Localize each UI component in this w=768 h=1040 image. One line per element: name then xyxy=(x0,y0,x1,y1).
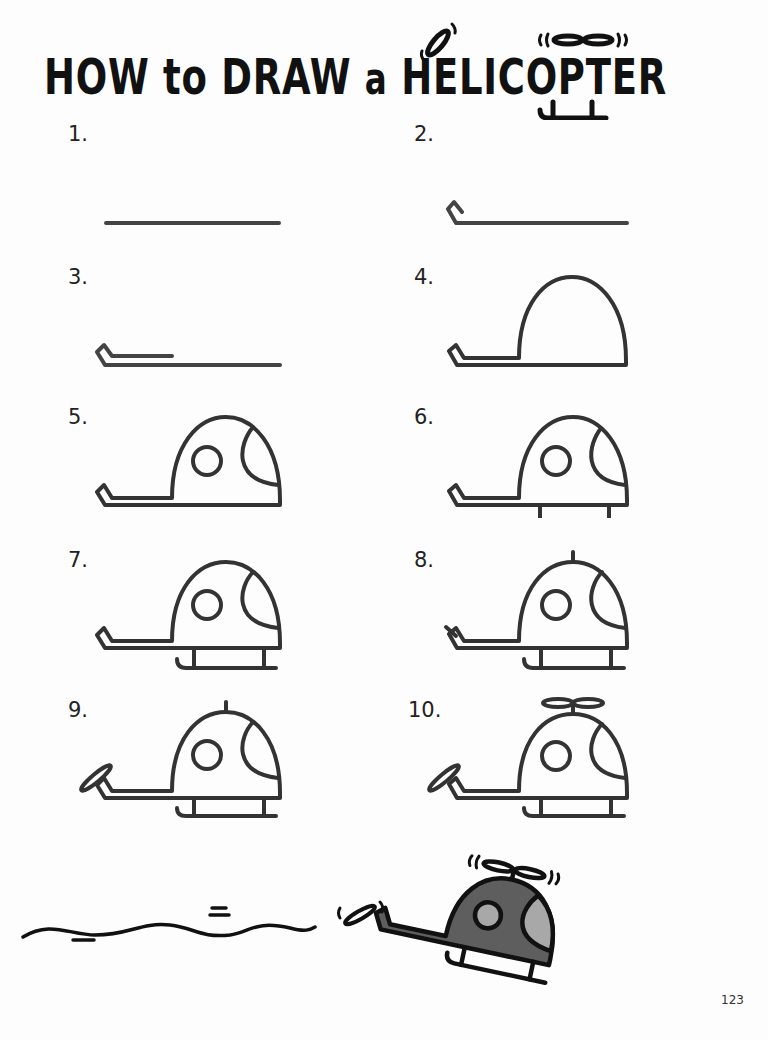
helicopter-step-10-drawing xyxy=(414,698,744,838)
page-title: HOW to DRAW a HELICOPTER xyxy=(0,10,768,110)
helicopter-step-4-drawing xyxy=(414,265,744,405)
helicopter-step-8-drawing xyxy=(414,548,744,688)
step-9: 9. xyxy=(68,698,398,838)
step-3: 3. xyxy=(68,265,398,405)
step-2: 2. xyxy=(414,122,744,262)
helicopter-step-1-drawing xyxy=(68,122,398,262)
helicopter-step-7-drawing xyxy=(68,548,398,688)
final-illustration xyxy=(0,840,768,1020)
page-number: 123 xyxy=(721,993,744,1007)
step-6: 6. xyxy=(414,405,744,545)
motion-line-icon xyxy=(23,908,315,940)
helicopter-step-5-drawing xyxy=(68,405,398,545)
step-7: 7. xyxy=(68,548,398,688)
step-10: 10. xyxy=(414,698,744,838)
title-text: HOW to DRAW a HELICOPTER xyxy=(44,48,667,106)
step-4: 4. xyxy=(414,265,744,405)
helicopter-step-2-drawing xyxy=(414,122,744,262)
helicopter-step-9-drawing xyxy=(68,698,398,838)
helicopter-step-6-drawing xyxy=(414,405,744,545)
flying-helicopter-illustration xyxy=(0,840,768,1020)
helicopter-step-3-drawing xyxy=(68,265,398,405)
step-5: 5. xyxy=(68,405,398,545)
step-8: 8. xyxy=(414,548,744,688)
step-1: 1. xyxy=(68,122,398,262)
